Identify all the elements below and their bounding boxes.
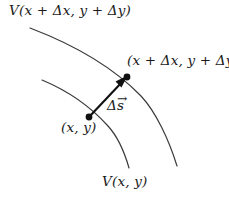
point-origin-label: (x, y) [61, 121, 97, 135]
equipotential-diagram: V(x + Δx, y + Δy) (x + Δx, y + Δy) (x, y… [0, 0, 229, 198]
outer-equipotential-curve [30, 28, 177, 166]
delta-symbol: Δ [107, 97, 117, 113]
vector-s-group: →s [117, 99, 124, 113]
inner-equipotential-label: V(x, y) [102, 175, 148, 189]
point-displaced-dot [124, 74, 131, 81]
vector-accent-arrow: → [117, 93, 124, 105]
outer-equipotential-label: V(x + Δx, y + Δy) [9, 4, 131, 18]
point-displaced-label: (x + Δx, y + Δy) [127, 54, 229, 68]
displacement-vector-label: Δ→s [107, 99, 124, 113]
